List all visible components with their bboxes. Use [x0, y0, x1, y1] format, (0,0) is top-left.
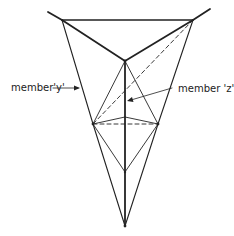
diagonal [93, 61, 125, 124]
diagonal [93, 124, 125, 172]
member-y-line [62, 20, 93, 124]
member-z-label: member 'z' [178, 83, 234, 94]
diagonal [93, 117, 125, 124]
member-y-label: member'y' [11, 82, 65, 93]
truss-drawing: member'y' member 'z' [0, 0, 234, 236]
leader-z [131, 88, 172, 100]
outer-leg [158, 20, 193, 124]
diagonal [125, 117, 158, 124]
outer-leg [125, 124, 158, 226]
top-edge [48, 12, 62, 20]
diagonal [125, 61, 158, 124]
diagonal [125, 124, 158, 172]
hidden-line [93, 20, 193, 124]
outer-leg [93, 124, 125, 226]
truss-diagram: member'y' member 'z' [0, 0, 234, 236]
apex-member [125, 20, 193, 61]
top-edge [193, 9, 210, 20]
arrow-z-icon [127, 97, 134, 102]
apex-member [62, 20, 125, 61]
arrow-y-icon [74, 86, 80, 91]
